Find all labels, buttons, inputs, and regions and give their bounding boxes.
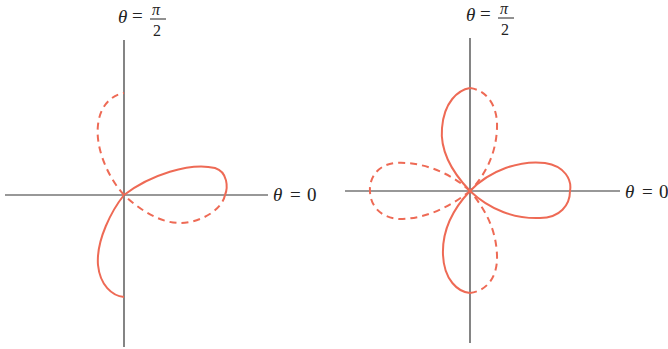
left-right-eq: = [290,184,301,205]
right-panel: θ = π 2 θ = 0 [345,0,668,343]
left-rose-dashed-right [124,195,225,223]
right-rose-lobe-north-dashed [470,88,497,191]
left-rose-solid-lower [98,195,124,297]
right-top-theta: θ [466,4,475,25]
left-right-theta: θ [273,184,282,205]
right-top-den: 2 [501,21,509,38]
left-top-num: π [152,1,161,18]
left-panel: θ = π 2 θ = 0 [5,1,317,347]
right-top-eq: = [480,3,491,24]
right-top-num: π [500,0,509,17]
right-right-val: 0 [659,181,668,202]
figure-canvas: θ = π 2 θ = 0 θ = π 2 θ = 0 [0,0,668,349]
left-top-den: 2 [153,22,161,39]
left-right-val: 0 [307,184,317,205]
left-top-theta: θ [118,6,127,27]
right-rose-lobe-south-dashed [470,191,497,293]
right-right-eq: = [642,181,653,202]
left-rose-dashed-upper [98,93,124,195]
left-rose-solid-right [124,167,227,195]
left-top-eq: = [132,5,143,26]
right-right-theta: θ [625,181,634,202]
right-rose-lobe-north-solid [442,88,470,191]
